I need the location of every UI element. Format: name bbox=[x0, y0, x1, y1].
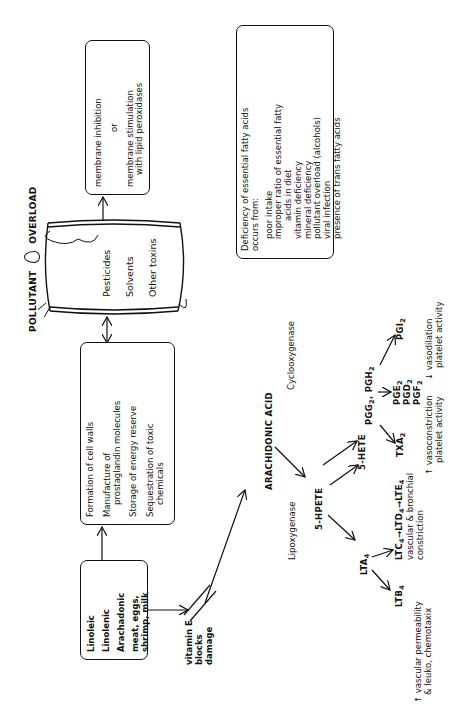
lta4-base: LTA bbox=[359, 558, 369, 575]
pgf2-base: PGF bbox=[412, 385, 422, 405]
function-item-cont: chemicals bbox=[156, 350, 166, 517]
ltd4-base: LTD bbox=[394, 513, 404, 531]
effect-line: platelet activity bbox=[435, 395, 445, 475]
toxin-item: Solvents bbox=[125, 219, 136, 297]
membrane-line: or bbox=[110, 48, 120, 187]
pgf2-label: PGF2 bbox=[413, 380, 423, 405]
arrow-right-icon: → bbox=[394, 531, 404, 538]
pgi2-label: PGI2 bbox=[396, 318, 406, 340]
lipoxygenase-label: Lipoxygenase bbox=[288, 502, 298, 560]
ltb4-sub: 4 bbox=[398, 585, 406, 590]
deficiency-heading: occurs from: bbox=[251, 33, 261, 251]
fatty-acid-functions-box: Formation of cell walls Manufacture of p… bbox=[80, 342, 175, 525]
fatty-acid-sources-box: Linoleic Linolenic Arachadonic meat, egg… bbox=[80, 560, 148, 660]
pgd2-base: PGD bbox=[402, 384, 412, 405]
lta4-label: LTA4 bbox=[360, 554, 370, 575]
arrow-right-icon: → bbox=[394, 501, 404, 508]
hpete-label: 5-HPETE bbox=[315, 488, 325, 530]
cause-item: presence of trans fatty acids bbox=[333, 33, 343, 251]
pgg2-base: PGG bbox=[364, 404, 374, 425]
food-source: shrimp, milk bbox=[141, 568, 151, 652]
effect-line: & leuko, chemotaxix bbox=[424, 601, 434, 703]
txa2-sub: 2 bbox=[399, 432, 407, 437]
ltc-effect: vascular & bronchial constriction bbox=[406, 473, 426, 560]
title-pollutant: POLLUTANT bbox=[28, 271, 38, 332]
lte4-base: LTE bbox=[394, 484, 404, 501]
membrane-line: membrane inhibition bbox=[94, 48, 104, 187]
txa2-effect: ↑ vasoconstriction platelet activity bbox=[425, 395, 445, 475]
function-item: Formation of cell walls bbox=[86, 350, 96, 517]
vitamin-e-line: damage bbox=[205, 620, 215, 665]
function-item: Storage of energy reserve bbox=[129, 350, 139, 517]
ltb4-effect: ↑ vascular permeability & leuko, chemota… bbox=[414, 601, 434, 703]
barrel-contents: Pesticides Solvents Other toxins bbox=[102, 219, 159, 297]
ltb4-base: LTB bbox=[394, 590, 404, 607]
title-overload: OVERLOAD bbox=[28, 187, 38, 244]
pgf2-sub: 2 bbox=[416, 380, 424, 385]
toxic-barrel-icon: Pesticides Solvents Other toxins bbox=[38, 217, 188, 317]
pgh2-base: PGH bbox=[364, 371, 374, 392]
pgi2-base: PGI bbox=[395, 323, 405, 340]
hete-label: 5-HETE bbox=[358, 434, 368, 470]
acid-item: Linolenic bbox=[102, 568, 112, 652]
acid-item: Arachadonic bbox=[117, 568, 127, 652]
ltc-chain-label: LTC4→LTD4→LTE4 bbox=[395, 479, 405, 560]
toxin-item: Other toxins bbox=[148, 219, 159, 297]
fatty-acid-pollutant-diagram: POLLUTANT OVERLOAD Pesticides Solvents O… bbox=[0, 0, 453, 725]
ltc4-base: LTC bbox=[394, 543, 404, 560]
membrane-line: with lipid peroxidases bbox=[135, 48, 145, 187]
arachidonic-acid-label: ARACHIDONIC ACID bbox=[265, 392, 275, 490]
ltb4-label: LTB4 bbox=[395, 585, 405, 607]
toxin-item: Pesticides bbox=[102, 219, 113, 297]
function-item-cont: prostaglandin molecules bbox=[113, 350, 123, 517]
txa2-label: TXA2 bbox=[396, 432, 406, 457]
pgg2-sub: 2 bbox=[368, 399, 376, 404]
vitamin-e-note: vitamin E blocks damage bbox=[185, 620, 214, 665]
pge2-base: PGE bbox=[392, 385, 402, 405]
effect-line: constriction bbox=[416, 473, 426, 560]
pgg-pgh-label: PGG2, PGH2 bbox=[365, 366, 375, 425]
connector-arrows bbox=[0, 0, 453, 725]
pgi2-effect: ↓ vasodilation platelet activity bbox=[425, 302, 445, 381]
deficiency-causes-box: Deficiency of essential fatty acids occu… bbox=[236, 25, 334, 259]
pgh2-sub: 2 bbox=[368, 366, 376, 371]
separator: , bbox=[364, 392, 374, 399]
effect-line: platelet activity bbox=[435, 302, 445, 381]
pgi2-sub: 2 bbox=[399, 318, 407, 323]
txa2-base: TXA bbox=[395, 437, 405, 457]
membrane-effect-box: membrane inhibition or membrane stimulat… bbox=[85, 40, 150, 195]
acid-item: Linoleic bbox=[87, 568, 97, 652]
cyclooxygenase-label: Cyclooxygenase bbox=[287, 321, 297, 390]
lta4-sub: 4 bbox=[363, 554, 371, 559]
